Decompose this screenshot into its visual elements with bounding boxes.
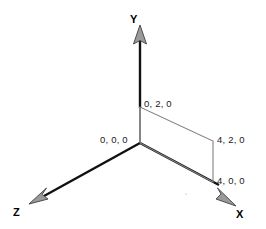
- axis-label-y: Y: [130, 14, 137, 25]
- xy-plane-rectangle: [140, 107, 213, 182]
- z-axis-line: [44, 143, 140, 196]
- axis-label-z: Z: [13, 207, 20, 218]
- point-label-4-2-0: 4, 2, 0: [217, 135, 245, 145]
- x-axis-arrowhead: [216, 188, 236, 206]
- axes-svg: [0, 0, 266, 229]
- background-speck: [185, 193, 187, 195]
- axis-label-x: X: [236, 209, 243, 220]
- point-label-origin: 0, 0, 0: [100, 135, 128, 145]
- point-label-4-0-0: 4, 0, 0: [217, 176, 245, 186]
- coordinate-system-diagram: Y X Z 0, 2, 0 0, 0, 0 4, 2, 0 4, 0, 0: [0, 0, 266, 229]
- point-label-0-2-0: 0, 2, 0: [144, 99, 172, 109]
